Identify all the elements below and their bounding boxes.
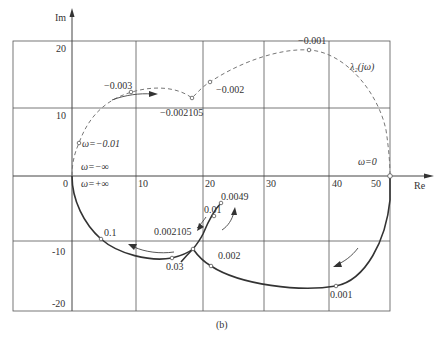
label-omega-neg-inf: ω=−∞ (81, 161, 109, 172)
label-neg-0.003: −0.003 (104, 80, 132, 91)
marker-0.03 (170, 256, 174, 260)
marker-0.002 (209, 264, 213, 268)
marker-0.002105 (191, 247, 195, 251)
arrow-head-top-icon (149, 91, 158, 97)
label-omega-neg-0.01: ω=−0.01 (82, 138, 120, 149)
marker-omega-0 (388, 174, 393, 179)
marker-neg-0.002105 (190, 96, 194, 100)
marker-neg-0.01 (77, 141, 81, 145)
label-0.03: 0.03 (166, 261, 184, 272)
im-axis-arrow-icon (70, 8, 75, 17)
y-tick-20: 20 (56, 43, 66, 54)
x-tick-50: 50 (371, 178, 381, 189)
im-axis-label: Im (55, 12, 66, 23)
x-tick-10: 10 (138, 178, 148, 189)
label-neg-0.001: −0.001 (298, 35, 326, 46)
y-tick-10: 10 (56, 110, 66, 121)
re-axis-arrow-icon (424, 174, 434, 179)
marker-0.001 (334, 284, 338, 288)
label-neg-0.002: −0.002 (216, 84, 244, 95)
re-axis-label: Re (414, 180, 426, 191)
direction-arrow-top (112, 94, 152, 100)
y-tick-neg20: -20 (52, 298, 65, 309)
label-omega-0: ω=0 (358, 156, 377, 167)
label-omega-pos-inf: ω=+∞ (81, 178, 109, 189)
curve-label: λ₂(jω) (349, 61, 375, 73)
x-tick-30: 30 (266, 178, 276, 189)
marker-neg-0.001 (307, 48, 311, 52)
negative-omega-curve (72, 50, 390, 176)
direction-arrow-bottom-left (134, 247, 174, 253)
marker-0.1 (99, 237, 103, 241)
y-tick-neg10: -10 (52, 246, 65, 257)
arrow-head-mid-right-icon (231, 207, 237, 215)
figure-caption: (b) (216, 319, 228, 331)
x-tick-0: 0 (63, 178, 68, 189)
marker-neg-0.002 (208, 80, 212, 84)
x-tick-40: 40 (332, 178, 342, 189)
label-0.1: 0.1 (104, 227, 117, 238)
label-0.01: 0.01 (204, 204, 222, 215)
x-tick-20: 20 (205, 178, 215, 189)
nyquist-diagram: Im Re 20 10 -10 -20 0 10 20 30 40 50 (0, 0, 446, 343)
label-0.002105: 0.002105 (154, 226, 192, 237)
label-0.002: 0.002 (218, 250, 241, 261)
label-0.001: 0.001 (330, 289, 353, 300)
label-0.0049: 0.0049 (221, 191, 249, 202)
arrow-head-bottom-right-icon (333, 261, 342, 267)
label-neg-0.002105: −0.002105 (160, 107, 203, 118)
